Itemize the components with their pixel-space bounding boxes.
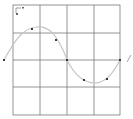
legend-text [22, 7, 24, 9]
data-point [83, 79, 85, 81]
sine-curve [4, 27, 120, 83]
chart [0, 0, 133, 119]
curve-continuation [127, 55, 131, 62]
data-point [106, 78, 108, 80]
data-point [55, 39, 57, 41]
data-point [119, 59, 121, 61]
legend-marker-sample [16, 13, 18, 15]
legend [16, 7, 24, 15]
data-point [31, 28, 33, 30]
data-markers [3, 28, 121, 81]
data-point [3, 59, 5, 61]
data-point [66, 59, 68, 61]
